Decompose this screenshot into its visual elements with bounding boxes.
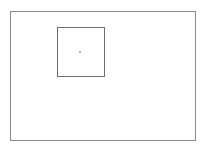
center-dot [79, 51, 81, 53]
inner-square [57, 27, 105, 77]
